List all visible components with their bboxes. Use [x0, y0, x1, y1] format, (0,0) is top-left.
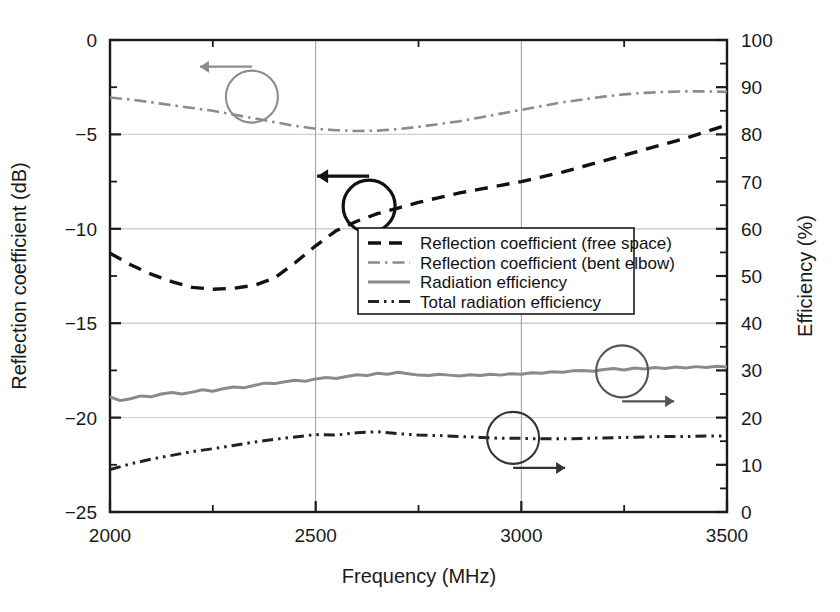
- x-axis-tick-label: 3500: [706, 525, 748, 546]
- y2-axis-tick-label: 30: [741, 360, 762, 381]
- y-axis-tick-label: −20: [65, 408, 97, 429]
- x-axis-tick-label: 2000: [89, 525, 131, 546]
- y2-axis-tick-label: 50: [741, 266, 762, 287]
- y-axis-tick-label: −5: [75, 124, 97, 145]
- y-axis-title: Reflection coefficient (dB): [8, 162, 30, 390]
- chart-figure: −25−20−15−10−500102030405060708090100200…: [0, 0, 840, 612]
- y2-axis-tick-label: 70: [741, 172, 762, 193]
- x-axis-tick-label: 3000: [500, 525, 542, 546]
- x-axis-title: Frequency (MHz): [342, 565, 496, 587]
- y-axis-tick-label: −25: [65, 502, 97, 523]
- legend-label-1: Reflection coefficient (bent elbow): [420, 254, 675, 273]
- x-axis-tick-label: 2500: [295, 525, 337, 546]
- reflection-efficiency-chart: −25−20−15−10−500102030405060708090100200…: [0, 0, 840, 612]
- y2-axis-tick-label: 60: [741, 219, 762, 240]
- y2-axis-tick-label: 0: [741, 502, 752, 523]
- y2-axis-tick-label: 40: [741, 313, 762, 334]
- legend-label-0: Reflection coefficient (free space): [420, 234, 672, 253]
- y-axis-tick-label: −15: [65, 313, 97, 334]
- y2-axis-tick-label: 90: [741, 77, 762, 98]
- legend-label-3: Total radiation efficiency: [420, 293, 602, 312]
- chart-legend: Reflection coefficient (free space)Refle…: [358, 228, 675, 314]
- y-axis-tick-label: 0: [86, 30, 97, 51]
- y-axis-tick-label: −10: [65, 219, 97, 240]
- y2-axis-tick-label: 10: [741, 455, 762, 476]
- y2-axis-title: Efficiency (%): [794, 215, 816, 337]
- legend-label-2: Radiation efficiency: [420, 273, 568, 292]
- y2-axis-tick-label: 20: [741, 408, 762, 429]
- y2-axis-tick-label: 100: [741, 30, 773, 51]
- y2-axis-tick-label: 80: [741, 124, 762, 145]
